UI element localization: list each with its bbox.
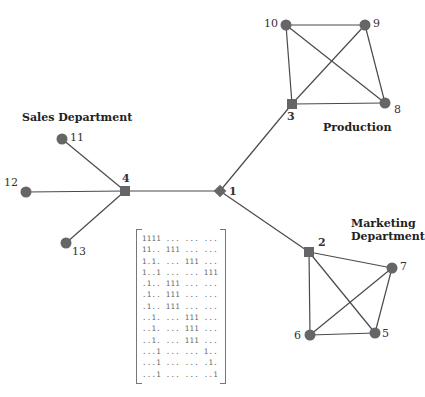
- edge-1-3: [220, 104, 292, 191]
- node-label-10: 10: [264, 17, 278, 30]
- matrix-row: .1.. 111 ... ...: [142, 278, 220, 289]
- edge-10-8: [286, 25, 385, 103]
- node-8-circle-icon: [380, 98, 391, 109]
- matrix-row: 1111 ... ... ...: [142, 233, 220, 244]
- edge-3-9: [292, 25, 365, 104]
- node-12-circle-icon: [21, 187, 32, 198]
- node-label-7: 7: [400, 260, 407, 273]
- node-label-13: 13: [72, 245, 86, 258]
- node-label-2: 2: [318, 236, 326, 249]
- node-5-circle-icon: [370, 328, 381, 339]
- node-label-6: 6: [294, 329, 301, 342]
- edge-6-7: [310, 268, 392, 335]
- node-2-square-icon: [304, 247, 314, 257]
- group-label-sales: Sales Department: [22, 111, 133, 124]
- edge-2-6: [309, 252, 310, 335]
- edge-4-12: [26, 191, 125, 192]
- group-label-marketing-line1: Marketing: [351, 217, 416, 230]
- matrix-row: ..1. ... 111 ...: [142, 323, 220, 334]
- group-label-marketing-line2: Department: [351, 230, 425, 243]
- node-label-9: 9: [373, 17, 380, 30]
- node-6-circle-icon: [305, 330, 316, 341]
- matrix-row: .1.. 111 ... ...: [142, 301, 220, 312]
- edge-2-5: [309, 252, 375, 333]
- matrix-row: ...1 ... ... 1..: [142, 346, 220, 357]
- matrix-row: 1..1 ... ... 111: [142, 267, 220, 278]
- node-9-circle-icon: [360, 20, 371, 31]
- node-label-1: 1: [229, 185, 237, 198]
- node-10-circle-icon: [281, 20, 292, 31]
- group-label-production: Production: [323, 121, 391, 134]
- matrix-row: .1.. 111 ... ...: [142, 289, 220, 300]
- adjacency-matrix: 1111 ... ... ... 11.. 111 ... ... 1.1. .…: [136, 229, 226, 384]
- node-7-circle-icon: [387, 263, 398, 274]
- node-label-3: 3: [287, 110, 295, 123]
- node-4-square-icon: [120, 186, 130, 196]
- org-network-diagram: 12345678910111213 Sales Department Produ…: [0, 0, 425, 397]
- edge-3-8: [292, 103, 385, 104]
- node-label-5: 5: [382, 327, 389, 340]
- node-label-8: 8: [394, 103, 401, 116]
- edge-2-7: [309, 252, 392, 268]
- matrix-row: ...1 ... ... ..1: [142, 369, 220, 380]
- edge-3-10: [286, 25, 292, 104]
- matrix-rows: 1111 ... ... ... 11.. 111 ... ... 1.1. .…: [142, 233, 220, 380]
- edge-7-5: [375, 268, 392, 333]
- edge-9-8: [365, 25, 385, 103]
- node-label-12: 12: [4, 176, 18, 189]
- edge-6-5: [310, 333, 375, 335]
- edge-4-13: [66, 191, 125, 243]
- matrix-row: 1.1. ... 111 ...: [142, 256, 220, 267]
- matrix-row: ..1. ... 111 ...: [142, 335, 220, 346]
- matrix-row: 11.. 111 ... ...: [142, 244, 220, 255]
- node-3-square-icon: [287, 99, 297, 109]
- node-label-11: 11: [70, 131, 84, 144]
- matrix-right-bracket: [220, 229, 226, 384]
- matrix-row: ..1. ... 111 ...: [142, 312, 220, 323]
- edge-4-11: [62, 139, 125, 191]
- node-13-circle-icon: [61, 238, 72, 249]
- node-11-circle-icon: [57, 134, 68, 145]
- matrix-row: ...1 ... ... .1.: [142, 357, 220, 368]
- edge-1-2: [220, 191, 309, 252]
- node-label-4: 4: [122, 172, 130, 185]
